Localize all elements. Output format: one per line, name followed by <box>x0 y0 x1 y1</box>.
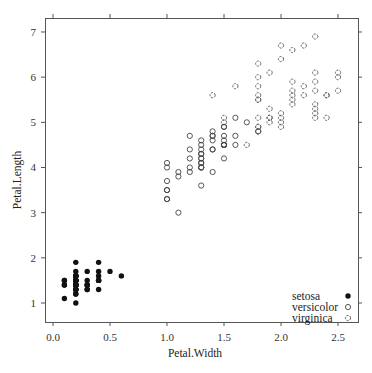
y-tick-label: 3 <box>31 207 37 219</box>
data-point <box>96 278 101 283</box>
legend-marker-setosa <box>345 293 350 298</box>
data-point <box>107 269 112 274</box>
x-tick-label: 2.5 <box>331 331 345 343</box>
x-axis-title: Petal.Width <box>168 347 222 359</box>
y-axis-title: Petal.Length <box>11 151 24 210</box>
data-point <box>62 282 67 287</box>
x-tick-label: 0.0 <box>46 331 60 343</box>
x-tick-label: 0.5 <box>103 331 117 343</box>
data-point <box>73 260 78 265</box>
data-point <box>73 300 78 305</box>
x-tick-label: 1.0 <box>160 331 174 343</box>
y-tick-label: 4 <box>31 161 37 173</box>
x-tick-label: 2.0 <box>274 331 288 343</box>
scatter-chart: 0.00.51.01.52.02.5 1234567 Petal.Width P… <box>0 0 372 373</box>
y-tick-label: 5 <box>31 116 37 128</box>
data-point <box>85 282 90 287</box>
y-tick-label: 2 <box>31 252 37 264</box>
data-point <box>85 269 90 274</box>
data-point <box>62 296 67 301</box>
data-point <box>96 287 101 292</box>
data-point <box>73 282 78 287</box>
y-tick-label: 1 <box>31 297 37 309</box>
x-tick-label: 1.5 <box>217 331 231 343</box>
y-tick-label: 7 <box>31 26 37 38</box>
data-point <box>119 273 124 278</box>
legend-label-virginica: virginica <box>292 312 333 325</box>
data-point <box>96 260 101 265</box>
y-tick-label: 6 <box>31 71 37 83</box>
